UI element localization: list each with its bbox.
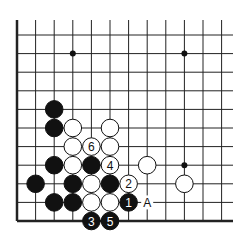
move-number: 5 bbox=[107, 215, 114, 229]
black-stone bbox=[45, 119, 63, 137]
white-stone bbox=[64, 138, 82, 156]
white-stone bbox=[64, 119, 82, 137]
black-stone bbox=[83, 156, 101, 174]
black-stone bbox=[101, 175, 119, 193]
white-stone: 6 bbox=[83, 138, 101, 156]
star-point bbox=[70, 51, 76, 57]
markers-layer: A bbox=[141, 195, 153, 210]
move-number: 6 bbox=[88, 140, 95, 154]
black-stone: 3 bbox=[83, 212, 101, 230]
white-stone bbox=[138, 156, 156, 174]
white-stone bbox=[176, 175, 194, 193]
black-stone bbox=[64, 194, 82, 212]
move-number: 1 bbox=[125, 196, 132, 210]
star-point bbox=[181, 162, 187, 168]
white-stone bbox=[83, 175, 101, 193]
black-stone: 5 bbox=[101, 212, 119, 230]
go-board-diagram: 642135 A bbox=[0, 0, 248, 244]
white-stone bbox=[83, 194, 101, 212]
white-stone bbox=[64, 156, 82, 174]
black-stone bbox=[27, 175, 45, 193]
white-stone bbox=[101, 138, 119, 156]
black-stone bbox=[45, 101, 63, 119]
white-stone: 4 bbox=[101, 156, 119, 174]
white-stone bbox=[101, 194, 119, 212]
point-marker: A bbox=[143, 196, 151, 210]
black-stone bbox=[45, 194, 63, 212]
black-stone: 1 bbox=[120, 194, 138, 212]
star-point bbox=[181, 51, 187, 57]
black-stone bbox=[64, 175, 82, 193]
move-number: 4 bbox=[107, 159, 114, 173]
move-number: 3 bbox=[88, 215, 95, 229]
move-number: 2 bbox=[125, 177, 132, 191]
black-stone bbox=[45, 156, 63, 174]
white-stone bbox=[101, 119, 119, 137]
white-stone: 2 bbox=[120, 175, 138, 193]
